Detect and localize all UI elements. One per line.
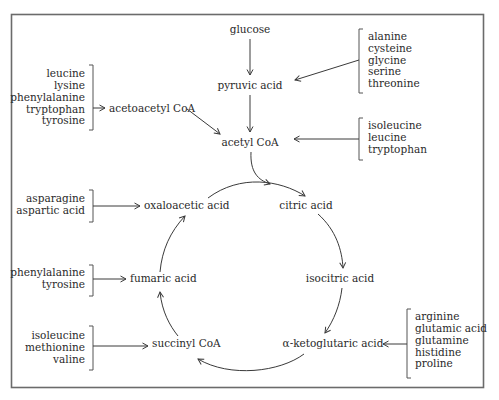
amino-acid-label: arginine	[415, 310, 459, 322]
node-succinyl-coa: succinyl CoA	[152, 337, 221, 349]
amino-acid-label: leucine	[368, 131, 407, 143]
amino-acid-label: phenylalanine	[10, 91, 85, 103]
node-oxaloacetic-acid: oxaloacetic acid	[144, 199, 230, 211]
amino-acid-label: tyrosine	[42, 114, 85, 126]
node-acetyl-coa: acetyl CoA	[221, 136, 279, 148]
citric-acid-cycle-diagram: glucose pyruvic acid acetyl CoA acetoace…	[0, 0, 499, 400]
amino-acid-label: glutamine	[415, 334, 469, 346]
amino-acid-label: phenylalanine	[10, 266, 85, 278]
amino-acid-label: alanine	[368, 30, 407, 42]
amino-acid-label: tyrosine	[42, 278, 85, 290]
node-citric-acid: citric acid	[279, 199, 333, 211]
node-pyruvic-acid: pyruvic acid	[217, 79, 282, 91]
amino-acid-label: tryptophan	[368, 143, 427, 155]
amino-acid-label: cysteine	[368, 42, 412, 54]
node-isocitric-acid: isocitric acid	[306, 272, 375, 284]
node-alpha-ketoglutaric-acid: α-ketoglutaric acid	[283, 337, 384, 349]
amino-acid-label: aspartic acid	[16, 204, 85, 216]
node-glucose: glucose	[230, 23, 271, 35]
amino-acid-label: lysine	[54, 79, 85, 91]
amino-acid-label: isoleucine	[368, 119, 422, 131]
amino-acid-label: isoleucine	[31, 329, 85, 341]
amino-acid-label: threonine	[368, 77, 420, 89]
amino-acid-label: valine	[52, 353, 85, 365]
amino-acid-label: proline	[415, 357, 453, 369]
node-fumaric-acid: fumaric acid	[130, 272, 197, 284]
amino-acid-label: glutamic acid	[415, 322, 487, 334]
amino-acid-label: asparagine	[26, 192, 85, 204]
amino-acid-label: methionine	[25, 341, 85, 353]
node-acetoacetyl-coa: acetoacetyl CoA	[109, 102, 195, 114]
amino-acid-label: serine	[368, 65, 401, 77]
amino-acid-label: leucine	[46, 67, 85, 79]
